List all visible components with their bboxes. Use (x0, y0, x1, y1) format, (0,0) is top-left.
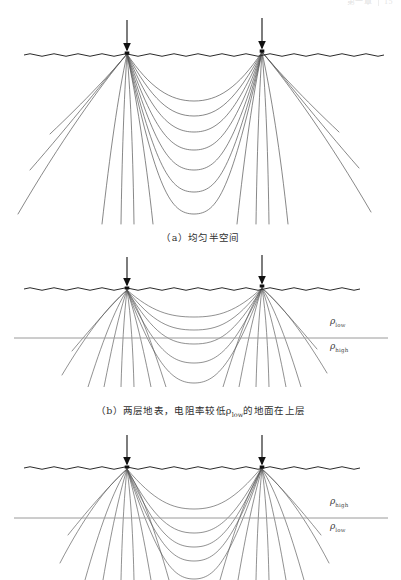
current-electrode-left-c (123, 435, 131, 469)
current-electrode-left-a (123, 20, 131, 55)
caption-b-suffix: 的地面在上层 (243, 405, 305, 416)
current-electrode-right-a (258, 18, 266, 53)
current-electrode-right-c (258, 435, 266, 469)
figure-panel-a (0, 18, 401, 228)
rho-subscript: high (335, 347, 348, 353)
rho-subscript: low (335, 527, 345, 533)
resistivity-label-c-upper: ρhigh (330, 496, 348, 508)
running-head-chapter: 第一章 (342, 0, 373, 6)
rho-subscript: low (335, 322, 345, 328)
resistivity-label-c-lower: ρlow (330, 521, 346, 533)
page-running-head: 第一章 15 (0, 0, 401, 12)
rho-subscript: high (335, 502, 348, 508)
running-head-page-number: 15 (378, 0, 393, 6)
current-electrode-right-b (258, 255, 266, 288)
current-electrode-left-b (123, 257, 131, 290)
figure-caption-b: （b）两层地表，电阻率较低ρlow的地面在上层 (0, 404, 401, 422)
ground-surface-line-c (24, 467, 360, 470)
resistivity-label-b-upper: ρlow (330, 316, 346, 328)
ground-surface-line-a (24, 54, 384, 57)
resistivity-label-b-lower: ρhigh (330, 341, 348, 353)
caption-a-text: （a）均匀半空间 (161, 232, 239, 243)
current-flow-lines-c (60, 467, 329, 580)
figure-caption-a: （a）均匀半空间 (0, 231, 401, 244)
caption-b-prefix: （b）两层地表，电阻率较低 (96, 405, 226, 416)
current-flow-lines-a (18, 52, 371, 224)
caption-b-rho-subscript: low (232, 411, 244, 419)
ground-surface-line-b (24, 288, 360, 291)
